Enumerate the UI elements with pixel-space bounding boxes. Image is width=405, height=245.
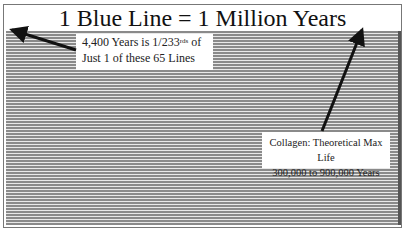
callout-collagen: Collagen: Theoretical Max Life 300,000 t…: [262, 132, 390, 168]
callout-left-line2: Just 1 of these 65 Lines: [82, 50, 213, 66]
callout-4400-years: 4,400 Years is 1/233rds of Just 1 of the…: [76, 34, 213, 70]
callout-left-line1: 4,400 Years is 1/233rds of: [82, 34, 213, 50]
footer-cutoff: [0, 229, 405, 245]
slide-title: 1 Blue Line = 1 Million Years: [4, 5, 401, 29]
callout-right-line1: Collagen: Theoretical Max Life: [262, 135, 390, 165]
callout-right-line2: 300,000 to 900,000 Years: [262, 165, 390, 180]
